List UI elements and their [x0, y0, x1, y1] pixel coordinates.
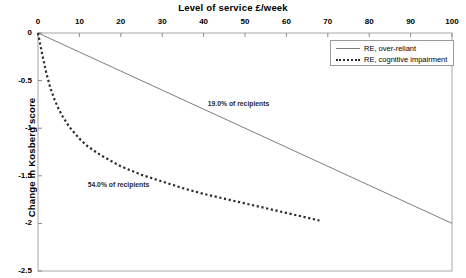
dashed-line-key-icon [335, 55, 361, 64]
solid-line-key-icon [335, 44, 361, 53]
plot-frame [38, 33, 452, 271]
legend: RE, over-reliant RE, cognitive impairmen… [330, 40, 454, 66]
legend-item-over-reliant: RE, over-reliant [335, 43, 416, 54]
annotation-0: 19.0% of recipients [208, 100, 270, 107]
legend-item-cognitive-impairment: RE, cognitive impairment [335, 54, 447, 65]
legend-label-cognitive-impairment: RE, cognitive impairment [364, 55, 447, 64]
legend-label-over-reliant: RE, over-reliant [364, 44, 416, 53]
chart-container: Level of service £/week 0102030405060708… [0, 0, 466, 278]
axis-ticks [38, 33, 452, 271]
series-line-1 [38, 33, 320, 221]
annotation-1: 54.0% of recipients [88, 181, 150, 188]
